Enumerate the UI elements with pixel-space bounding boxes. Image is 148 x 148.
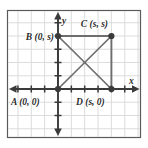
point-label-b: B (0, s)	[25, 32, 54, 43]
coordinate-plane-figure: B (0, s) C (s, s) A (0, 0) D (s, 0) x y	[0, 0, 148, 148]
coordinate-plane-svg: B (0, s) C (s, s) A (0, 0) D (s, 0) x y	[0, 0, 148, 148]
vertex-dot-a	[55, 86, 61, 92]
y-axis-label: y	[61, 16, 67, 26]
vertex-dot-b	[55, 33, 61, 39]
point-label-d: D (s, 0)	[75, 97, 105, 108]
vertex-dot-c	[108, 33, 114, 39]
vertex-dot-d	[108, 86, 114, 92]
point-label-a: A (0, 0)	[10, 97, 40, 108]
x-axis-label: x	[128, 76, 134, 86]
point-label-c: C (s, s)	[81, 19, 108, 30]
